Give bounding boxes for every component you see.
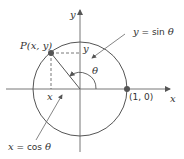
radius-line	[51, 53, 80, 89]
projection-x-label: x	[47, 91, 53, 102]
point-one-zero-label: (1, 0)	[129, 92, 153, 102]
point-p-label: P(x, y)	[19, 40, 52, 51]
unit-circle-diagram: y x P(x, y) y x θ (1, 0) y = sin θ x = c…	[0, 0, 184, 159]
y-axis-label: y	[69, 9, 76, 20]
projection-y-label: y	[82, 43, 89, 54]
x-axis-label: x	[170, 93, 176, 104]
sin-leader-line	[92, 34, 125, 58]
angle-label: θ	[92, 65, 98, 76]
cos-label: x = cos θ	[8, 141, 51, 152]
sin-label: y = sin θ	[132, 26, 174, 37]
